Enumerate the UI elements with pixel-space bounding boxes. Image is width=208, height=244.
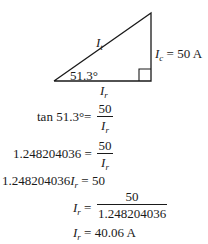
equation-line-2-fraction: 50 Ir xyxy=(97,139,113,172)
hypotenuse-label: It xyxy=(96,36,103,52)
vertical-side-label: Ic = 50 A xyxy=(155,47,202,63)
equation-line-4-lhs: Ir = xyxy=(73,201,91,217)
base-label: Ir xyxy=(100,84,108,100)
equation-line-1-lhs: tan 51.3°= xyxy=(37,110,91,123)
equation-line-2-lhs: 1.248204036 = xyxy=(13,147,92,160)
equation-line-4-fraction: 50 1.248204036 xyxy=(97,190,167,220)
equation-line-3: 1.248204036Ir = 50 xyxy=(2,174,105,190)
equation-line-5: Ir = 40.06 A xyxy=(73,226,136,242)
equation-line-1-fraction: 50 Ir xyxy=(97,102,113,135)
angle-label: 51.3° xyxy=(70,69,98,82)
right-angle-marker xyxy=(139,69,151,81)
